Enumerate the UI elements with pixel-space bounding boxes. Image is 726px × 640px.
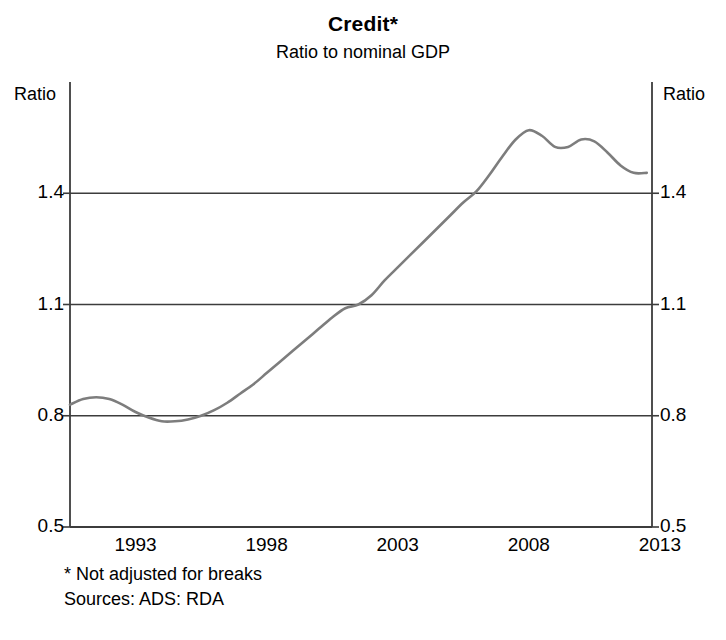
x-tick-label: 2013 <box>620 534 700 556</box>
axis-ticks <box>63 193 659 527</box>
footnote-sources: Sources: ADS: RDA <box>64 587 262 612</box>
y-tick-label-left: 1.4 <box>10 181 64 203</box>
x-tick-label: 2008 <box>489 534 569 556</box>
x-tick-label: 1998 <box>227 534 307 556</box>
x-tick-label: 2003 <box>358 534 438 556</box>
data-line-credit-ratio <box>70 130 647 422</box>
footnote-note: * Not adjusted for breaks <box>64 562 262 587</box>
y-tick-label-right: 1.4 <box>660 181 714 203</box>
x-tick-label: 1993 <box>96 534 176 556</box>
y-tick-label-left: 0.8 <box>10 404 64 426</box>
y-tick-label-right: 0.8 <box>660 404 714 426</box>
y-tick-label-left: 1.1 <box>10 293 64 315</box>
chart-footnotes: * Not adjusted for breaks Sources: ADS: … <box>64 562 262 612</box>
chart-figure: Credit* Ratio to nominal GDP Ratio Ratio… <box>0 0 726 640</box>
y-tick-label-left: 0.5 <box>10 515 64 537</box>
y-tick-label-right: 1.1 <box>660 293 714 315</box>
